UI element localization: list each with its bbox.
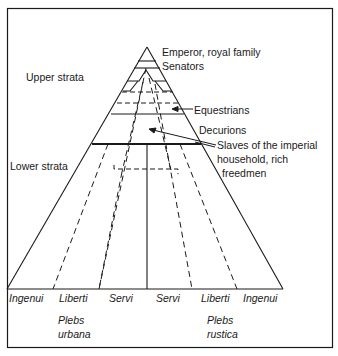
group-rustica-line1: Plebs xyxy=(207,314,233,326)
label-senators: Senators xyxy=(162,60,204,72)
label-slaves-line2: household, rich xyxy=(217,153,288,165)
dashed-diagonals xyxy=(53,68,237,289)
base-label-ingenui-left: Ingenui xyxy=(9,292,43,304)
label-upper-strata: Upper strata xyxy=(26,71,84,83)
base-label-liberti-right: Liberti xyxy=(201,292,230,304)
base-label-servi-left: Servi xyxy=(109,292,133,304)
base-label-ingenui-right: Ingenui xyxy=(243,292,277,304)
base-label-liberti-left: Liberti xyxy=(59,292,88,304)
group-urbana-line2: urbana xyxy=(58,328,91,340)
imperial-slaves-box xyxy=(114,165,178,174)
label-emperor: Emperor, royal family xyxy=(162,46,261,58)
label-slaves-line1: Slaves of the imperial xyxy=(217,139,317,151)
label-lower-strata: Lower strata xyxy=(10,160,68,172)
group-urbana-line1: Plebs xyxy=(58,314,84,326)
equestrian-dashed-lines xyxy=(117,92,178,103)
label-decurions: Decurions xyxy=(199,124,246,136)
group-rustica-line2: rustica xyxy=(207,328,238,340)
base-label-servi-right: Servi xyxy=(156,292,180,304)
label-slaves-line3: freedmen xyxy=(222,167,266,179)
label-equestrians: Equestrians xyxy=(194,104,249,116)
